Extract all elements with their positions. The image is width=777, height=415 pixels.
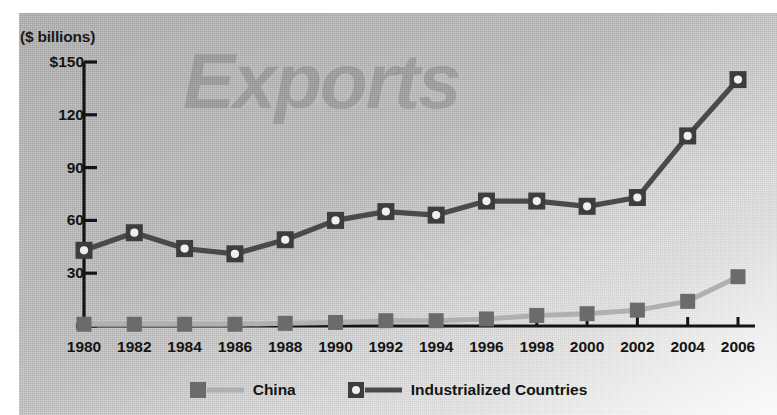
- x-axis-tick-label: 1988: [268, 338, 302, 356]
- data-point-marker: [630, 303, 645, 318]
- legend-item-china[interactable]: China: [190, 379, 296, 401]
- data-point-marker: [529, 308, 544, 323]
- data-point-marker: [378, 313, 393, 328]
- data-point-marker-center: [432, 211, 440, 219]
- data-point-marker: [278, 316, 293, 331]
- data-point-marker: [227, 317, 242, 332]
- data-point-marker: [429, 313, 444, 328]
- x-axis-tick-label: 2000: [570, 338, 604, 356]
- data-point-marker: [580, 306, 595, 321]
- x-axis-tick-label: 2004: [670, 338, 704, 356]
- x-axis-tick-label: 1990: [318, 338, 352, 356]
- x-axis-tick-label: 1982: [117, 338, 151, 356]
- data-point-marker-center: [633, 193, 641, 201]
- legend-swatch: [190, 379, 244, 401]
- data-point-marker-center: [231, 250, 239, 258]
- chart-series-group: [76, 71, 747, 332]
- data-point-marker-center: [181, 244, 189, 252]
- legend-swatch: [348, 379, 402, 401]
- data-point-marker-center: [684, 132, 692, 140]
- x-axis-tick-label: 2002: [620, 338, 654, 356]
- legend-marker-icon: [190, 382, 206, 398]
- data-point-marker: [177, 317, 192, 332]
- data-point-marker-center: [533, 197, 541, 205]
- data-point-marker: [328, 315, 343, 330]
- data-point-marker: [77, 317, 92, 332]
- data-point-marker-center: [382, 208, 390, 216]
- data-point-marker: [127, 317, 142, 332]
- legend-item-label: China: [253, 381, 296, 399]
- data-point-marker-center: [130, 229, 138, 237]
- x-axis-tick-label: 1980: [67, 338, 101, 356]
- legend-marker-icon: [348, 382, 364, 398]
- x-axis-tick-label: 1986: [218, 338, 252, 356]
- data-point-marker: [479, 311, 494, 326]
- x-axis-tick-label: 1994: [419, 338, 453, 356]
- data-point-marker-center: [734, 76, 742, 84]
- data-point-marker: [680, 294, 695, 309]
- legend-line-icon: [207, 388, 244, 393]
- series-line-industrialized-countries: [84, 80, 738, 254]
- legend-item-label: Industrialized Countries: [411, 381, 588, 399]
- data-point-marker: [731, 269, 746, 284]
- x-axis-tick-label: 1996: [469, 338, 503, 356]
- x-axis-tick-label: 2006: [721, 338, 755, 356]
- data-point-marker-center: [281, 236, 289, 244]
- chart-screenshot: Exports ($ billions) 0306090120$150 1980…: [0, 0, 777, 415]
- chart-legend: ChinaIndustrialized Countries: [0, 374, 777, 406]
- chart-axes: [84, 62, 755, 326]
- legend-line-icon: [365, 388, 402, 393]
- data-point-marker-center: [482, 197, 490, 205]
- x-axis-tick-label: 1998: [520, 338, 554, 356]
- data-point-marker-center: [331, 216, 339, 224]
- data-point-marker-center: [80, 246, 88, 254]
- x-axis-tick-label: 1992: [369, 338, 403, 356]
- x-axis-tick-label: 1984: [167, 338, 201, 356]
- data-point-marker-center: [583, 202, 591, 210]
- legend-item-industrialized-countries[interactable]: Industrialized Countries: [348, 379, 588, 401]
